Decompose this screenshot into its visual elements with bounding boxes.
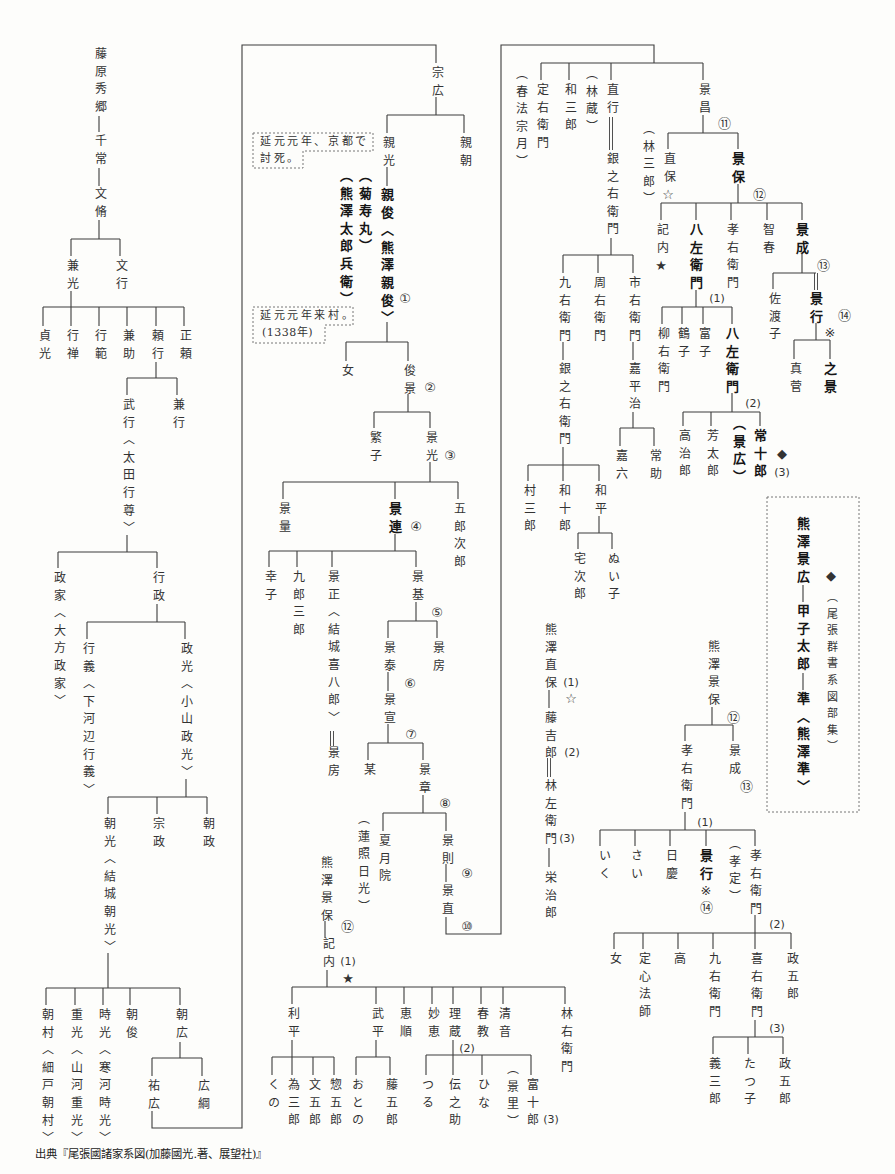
person-node: 理蔵 (447, 1007, 460, 1042)
branch-generation-marker: (1) (709, 292, 725, 305)
person-node: 景保 (732, 152, 745, 187)
person-node: 日慶 (664, 849, 677, 884)
person-node: 女 (340, 364, 353, 382)
person-node: 政家〈大方政家〉 (52, 571, 65, 712)
person-node: ぬい子 (606, 552, 619, 605)
person-node: 行禅 (65, 329, 78, 364)
person-node: 林左衛門 (543, 779, 556, 849)
person-node: 朝俊 (124, 1008, 137, 1043)
info-box-outline (767, 497, 859, 812)
person-node: 佐渡子 (767, 292, 780, 345)
person-node: さい (629, 849, 642, 884)
person-node: くの (266, 1078, 279, 1113)
person-node: 景成 (727, 744, 740, 779)
person-node: 妙恵 (426, 1007, 439, 1042)
person-node: 甲子太郎 (797, 604, 810, 674)
person-node: 直保 (662, 152, 675, 187)
person-node: 親光 (381, 136, 394, 171)
person-node: たつ子 (742, 1057, 755, 1110)
person-node: 景直 (440, 884, 453, 919)
person-node: 宅次郎 (572, 552, 585, 605)
person-node: 俊景 (402, 364, 415, 399)
person-node: 景連 (389, 502, 402, 537)
branch-generation-marker: (2) (769, 918, 785, 931)
alias-node: （孝定） (727, 837, 740, 907)
person-node: 和三郎 (563, 83, 576, 136)
person-node: 惣五郎 (328, 1078, 341, 1131)
person-node: 宗広 (430, 66, 443, 101)
person-node: 銀之右衛門 (557, 362, 570, 450)
person-node: 時光〈寒河時光〉 (97, 1008, 110, 1149)
person-node: 貞光 (37, 329, 50, 364)
person-node: 行範 (93, 329, 106, 364)
generation-number-marker: ① (399, 292, 411, 305)
person-node: おとの (350, 1078, 363, 1131)
alias-node: （春法宗月） (514, 67, 527, 173)
person-node: 文行 (114, 259, 127, 294)
reference-mark-icon: ※ (825, 326, 836, 339)
person-node: 景行 (700, 849, 713, 884)
person-node: 親朝 (458, 136, 471, 171)
alias-node: （蓮照日光） (356, 812, 369, 918)
generation-number-marker: ⑫ (727, 711, 740, 724)
generation-number-marker: ⑫ (753, 188, 766, 201)
person-node: 武行〈太田行尊〉 (121, 398, 134, 539)
person-node: 熊澤景広 (797, 517, 810, 587)
person-node: 繁子 (368, 431, 381, 466)
person-node: 定右衛門 (535, 83, 548, 153)
generation-number-marker: ⑤ (431, 606, 443, 619)
generation-number-marker: ⑨ (461, 867, 473, 880)
person-node: 八左衛門 (726, 327, 739, 397)
person-node: ひな (476, 1078, 489, 1113)
person-node: 八左衛門 (690, 223, 703, 293)
person-node: 高治郎 (677, 429, 690, 482)
person-node: 親俊〈熊澤親俊〉 (381, 188, 394, 329)
person-node: 為三郎 (286, 1078, 299, 1131)
alias-node: （景広） (733, 417, 746, 487)
star-icon: ★ (655, 259, 667, 272)
person-node: 藤五郎 (384, 1078, 397, 1131)
person-node: 景宣 (382, 693, 395, 728)
person-node: 九郎三郎 (291, 570, 304, 640)
person-node: 熊澤景保 (706, 640, 719, 710)
annotation-note: 延元元年来村。 (260, 310, 355, 322)
person-node: 頼行 (150, 329, 163, 364)
person-node: 武平 (370, 1007, 383, 1042)
person-node: 景房 (431, 641, 444, 676)
star-icon: ★ (342, 972, 354, 985)
star-outline-icon: ☆ (565, 692, 577, 705)
person-node: 常十郎 (754, 429, 767, 482)
generation-number-marker: ④ (410, 520, 422, 533)
person-node: 記内 (321, 937, 334, 972)
person-node: 政光〈小山政光〉 (179, 642, 192, 783)
person-node: 真菅 (788, 362, 801, 397)
branch-generation-marker: (1) (340, 955, 356, 968)
branch-generation-marker: (1) (697, 816, 713, 829)
person-node: 景成 (796, 223, 809, 258)
alias-node: （林三郎） (641, 122, 654, 210)
person-node: 準〈熊澤準〉 (797, 692, 810, 798)
person-node: 恵順 (398, 1007, 411, 1042)
person-node: 和十郎 (557, 484, 570, 537)
generation-number-marker: ③ (444, 449, 456, 462)
branch-generation-marker: (2) (564, 746, 580, 759)
generation-number-marker: ⑭ (700, 901, 713, 914)
person-node: 常助 (648, 449, 661, 484)
genealogy-chart: 延元元年、京都で 討死。 延元元年来村。 (1338年) 藤原秀郷 千常 文脩 … (0, 0, 895, 1174)
person-node: 芳太郎 (705, 429, 718, 482)
person-node: 藤原秀郷 (93, 47, 106, 117)
person-node: 之景 (824, 362, 837, 397)
person-node: 広綱 (196, 1079, 209, 1114)
alias-node: （景里） (505, 1062, 518, 1132)
person-node: 女 (608, 952, 621, 970)
person-node: 朝村〈細戸朝村〉 (40, 1008, 53, 1149)
branch-generation-marker: (3) (543, 1113, 559, 1126)
person-node: 朝政 (201, 817, 214, 852)
person-node: 景泰 (382, 641, 395, 676)
person-node: 行政 (151, 571, 164, 606)
person-node: 孝右衛門 (725, 223, 738, 293)
person-node: 智春 (761, 223, 774, 258)
source-note-node: （尾張群書系図部集） (825, 591, 838, 757)
branch-generation-marker: (3) (769, 1022, 785, 1035)
branch-generation-marker: (3) (774, 466, 790, 479)
